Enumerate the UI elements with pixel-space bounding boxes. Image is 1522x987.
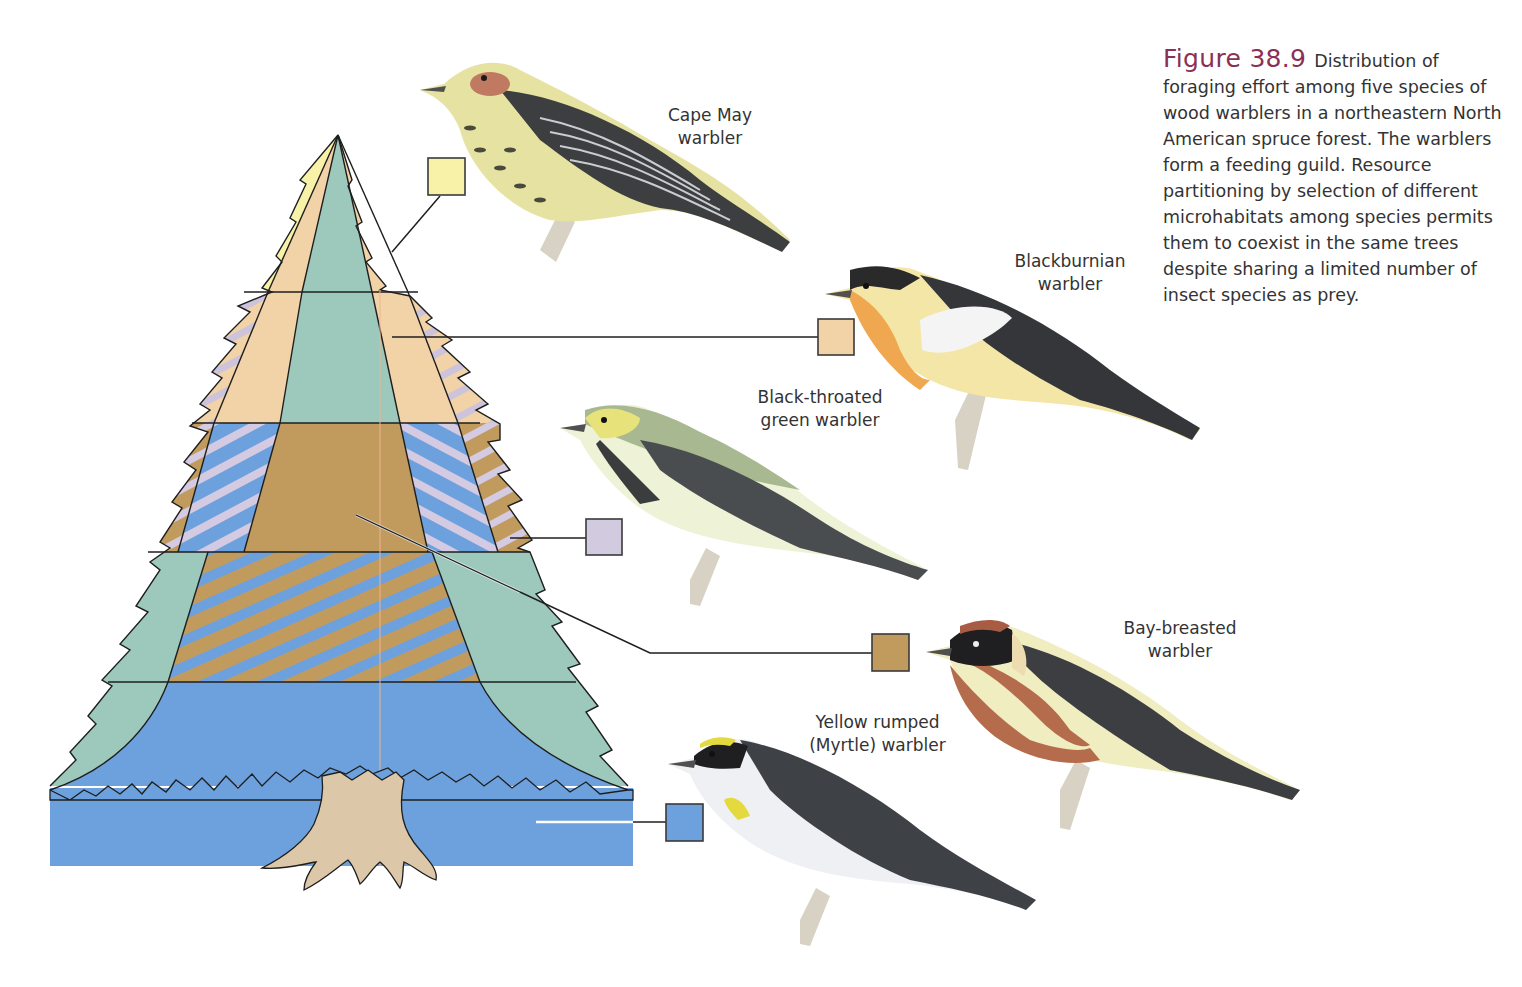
key-box-yellow-rumped [666,804,703,841]
figure-number: Figure 38.9 [1163,44,1306,73]
label-blackburnian: Blackburnian warbler [990,250,1150,296]
bird-illustration-yellow-rumped [668,737,1036,946]
figure-caption: Figure 38.9Distribution of foraging effo… [1163,46,1503,308]
key-box-black-throated-green [586,519,622,555]
label-bay-breasted: Bay-breasted warbler [1095,617,1265,663]
key-box-bay-breasted [872,634,909,671]
key-box-blackburnian [818,319,854,355]
bird-illustration-blackburnian [825,266,1200,470]
label-black-throated-green: Black-throated green warbler [735,386,905,432]
connector-cape-may [392,196,440,252]
bird-illustration-cape-may [420,63,790,262]
key-box-cape-may [428,158,465,195]
label-yellow-rumped: Yellow rumped (Myrtle) warbler [790,711,965,757]
bird-illustration-black-throated-green [560,405,928,606]
caption-text: Distribution of foraging effort among fi… [1163,51,1502,305]
label-cape-may: Cape May warbler [640,104,780,150]
